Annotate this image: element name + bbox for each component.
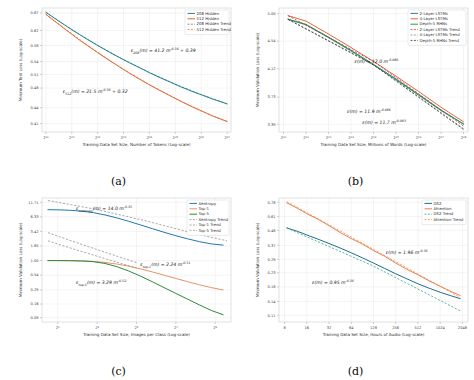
yaxis-title-d: Minimum Validation Loss (Log-scale) (255, 222, 260, 297)
ytick-label-6: 0.18 (267, 285, 276, 289)
xtick-label-4: 128 (370, 326, 378, 330)
xtick-label-2: 32 (327, 326, 332, 330)
ytick-label-7: 0.14 (267, 300, 276, 304)
ytick-label-0: 0.67 (30, 11, 38, 15)
xtick-label-8: 2048 (458, 326, 468, 330)
xtick-label-2: 25 (135, 325, 139, 330)
ytick-label-5: 0.54 (30, 273, 39, 277)
xaxis-d: 816326412825651210242048 (283, 322, 467, 330)
legend-c: XentropyTop-1Top-5Xentropy TrendTop-1 Tr… (187, 200, 229, 235)
legend-label-c-2: Top-5 (198, 211, 210, 216)
xaxis-title-c: Training Data Set Size, Images per Class… (82, 332, 190, 337)
xaxis-title-a: Training Data Set Size, Number of Tokens… (81, 142, 191, 147)
legend-b: 2-Layer LSTMs4-Layer LSTMsDepth-5 RHNs2-… (408, 10, 466, 45)
xtick-label-5: 256 (392, 326, 400, 330)
ytick-label-7: 0.16 (30, 302, 39, 306)
series-c-5 (48, 241, 137, 268)
eq_c_xent: εxentropy(m) = 14.0 m-0.35 (76, 205, 132, 213)
xtick-label-7: 1024 (436, 326, 446, 330)
xtick-label-3: 27 (174, 325, 178, 330)
ytick-label-1: 4.54 (267, 39, 276, 43)
chart-c: 11.716.333.421.851.000.540.290.160.09212… (0, 190, 237, 350)
xtick-label-5: 225 (393, 135, 399, 140)
chart-b: 5.004.544.123.733.3922022122222322422522… (237, 0, 474, 160)
xtick-label-7: 227 (438, 135, 444, 140)
xtick-label-2: 222 (95, 135, 101, 140)
legend-label-b-3: 2-Layer LSTMs Trend (420, 27, 461, 32)
ytick-label-4: 0.29 (267, 258, 276, 262)
xtick-label-8: 228 (461, 135, 467, 140)
xtick-label-7: 227 (224, 135, 230, 140)
ytick-label-2: 0.48 (267, 229, 276, 233)
eq_c_top1: εtop-1(m) = 2.24 m-0.31 (140, 261, 190, 269)
xtick-label-5: 225 (173, 135, 179, 140)
ytick-label-4: 1.00 (30, 259, 39, 263)
xaxis-c: 2123252729 (56, 322, 218, 330)
legend-label-a-1: 512 Hidden (197, 16, 220, 21)
panel-a-plot: 0.670.620.580.540.510.480.440.4122022122… (0, 0, 237, 160)
eq_d_ds2: ε(m) = 0.95 m-0.30 (312, 279, 354, 285)
legend-label-b-4: 4-Layer LSTMs Trend (420, 32, 461, 37)
eq_b_2: ε(m) = 11.9 m-0.086 (347, 108, 391, 114)
xtick-label-0: 220 (43, 135, 49, 140)
yaxis-d: 0.780.610.480.370.290.230.180.140.11 (267, 201, 279, 318)
yaxis-c: 11.716.333.421.851.000.540.290.160.09 (28, 201, 42, 320)
legend-label-d-1: Attention (434, 206, 452, 211)
series-c-4 (48, 233, 137, 263)
legend-label-c-3: Xentropy Trend (199, 217, 229, 222)
xtick-label-6: 226 (416, 135, 422, 140)
legend-label-c-0: Xentropy (199, 201, 217, 206)
ytick-label-0: 11.71 (28, 201, 38, 205)
xtick-label-6: 512 (415, 326, 422, 330)
xtick-label-4: 224 (371, 135, 377, 140)
legend-label-c-1: Top-1 (198, 206, 210, 211)
ytick-label-3: 0.37 (267, 244, 275, 248)
ytick-label-2: 3.42 (30, 230, 38, 234)
legend-a: 208 Hidden512 Hidden208 Hidden Trend512 … (185, 10, 231, 35)
ytick-label-4: 3.39 (267, 123, 276, 127)
panel-b-plot: 5.004.544.123.733.3922022122222322422522… (237, 0, 474, 160)
xtick-label-3: 64 (349, 326, 354, 330)
yaxis-title-a: Minimum Test Loss (Log-scale) (18, 38, 23, 101)
xtick-label-1: 16 (305, 326, 310, 330)
ytick-label-3: 0.54 (30, 60, 39, 64)
ytick-label-0: 0.78 (267, 201, 276, 205)
ytick-label-7: 0.41 (30, 122, 38, 126)
xtick-label-1: 221 (69, 135, 75, 140)
panel-c-caption: (c) (0, 365, 237, 378)
panel-d: 0.780.610.480.370.290.230.180.140.118163… (237, 190, 474, 380)
xtick-label-2: 222 (326, 135, 332, 140)
yaxis-b: 5.004.544.123.733.39 (267, 12, 279, 127)
xtick-label-4: 29 (213, 325, 217, 330)
ytick-label-1: 0.61 (267, 215, 275, 219)
ytick-label-0: 5.00 (267, 12, 276, 16)
legend-label-a-3: 512 Hidden Trend (197, 27, 232, 32)
xtick-label-3: 223 (348, 135, 354, 140)
eq_a_208: ε208(m) = 41.2 m-0.36 + 0.39 (131, 47, 196, 55)
legend-label-a-0: 208 Hidden (197, 11, 220, 16)
xaxis-title-d: Training Data Set Size, Hours of Audio (… (322, 332, 425, 337)
ytick-label-1: 0.62 (30, 29, 38, 33)
xtick-label-0: 21 (56, 325, 60, 330)
ytick-label-1: 6.33 (30, 215, 38, 219)
figure-root: 0.670.620.580.540.510.480.440.4122022122… (0, 0, 474, 380)
chart-d: 0.780.610.480.370.290.230.180.140.118163… (237, 190, 474, 350)
xtick-label-0: 8 (283, 326, 286, 330)
ytick-label-4: 0.51 (30, 73, 38, 77)
eq_c_top5: εtop-5(m) = 3.29 m-0.52 (76, 279, 126, 287)
eq_d_att: ε(m) = 1.96 m-0.30 (386, 249, 428, 255)
ytick-label-8: 0.11 (267, 314, 275, 318)
ytick-label-6: 0.44 (30, 106, 39, 110)
ytick-label-6: 0.29 (30, 288, 39, 292)
eq_b_1: ε(m) = 12.0 m-0.086 (355, 58, 399, 64)
xaxis-title-b: Training Data Set Size, Millions of Word… (320, 142, 427, 147)
ytick-label-5: 0.48 (30, 86, 39, 90)
series-c-2 (48, 261, 223, 315)
eq_b_3: ε(m) = 11.7 m-0.083 (362, 119, 406, 125)
legend-label-b-2: Depth-5 RHNs (420, 21, 448, 26)
panel-b-caption: (b) (237, 175, 474, 188)
legend-label-d-3: Attention Trend (434, 217, 464, 222)
xtick-label-0: 220 (281, 135, 287, 140)
xtick-label-6: 226 (198, 135, 204, 140)
ytick-label-2: 0.58 (30, 44, 39, 48)
